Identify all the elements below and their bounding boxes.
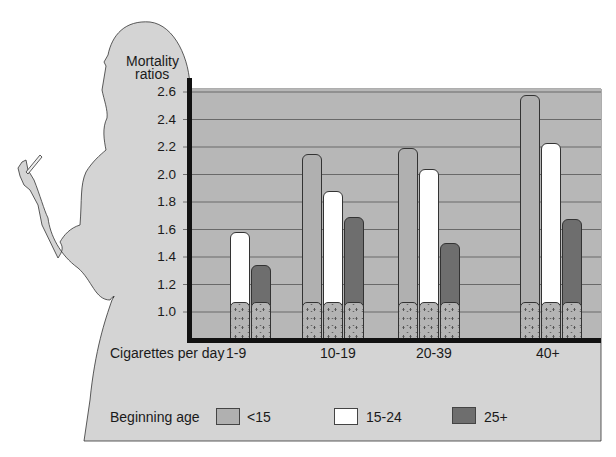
y-tick-label: 1.2 [136,277,176,292]
legend-swatch-15-24 [334,408,358,425]
legend-label-15-24: 15-24 [366,409,402,425]
bar-base-stipple [230,302,250,339]
y-tick-label: 2.0 [136,167,176,182]
x-axis-line [187,338,601,343]
legend-swatch-25plus [452,407,476,424]
legend-label-25plus: 25+ [484,409,508,425]
bar-base-stipple [302,302,322,339]
cigarette-icon [26,155,42,174]
bar-base-stipple [562,302,582,339]
y-tick-label: 1.4 [136,249,176,264]
x-category-label: 1-9 [226,345,246,361]
y-tick-label: 2.2 [136,139,176,154]
y-tick-label: 2.4 [136,112,176,127]
legend-swatch-lt15 [216,408,240,425]
legend-title: Beginning age [110,409,200,425]
bar-base-stipple [520,302,540,339]
y-tick-label: 2.6 [136,84,176,99]
legend-label-lt15: <15 [247,409,271,425]
bar-base-stipple [541,302,561,339]
x-category-label: 40+ [536,345,560,361]
x-category-label: 20-39 [416,345,452,361]
bar-base-stipple [344,302,364,339]
y-tick-label: 1.6 [136,222,176,237]
y-tick-label: 1.0 [136,304,176,319]
x-axis-label: Cigarettes per day [110,345,224,361]
bar-base-stipple [251,302,271,339]
chart-figure: Mortality ratios 2.62.42.22.01.81.61.41.… [0,0,616,457]
bar-base-stipple [398,302,418,339]
y-axis-line [187,78,192,343]
x-category-label: 10-19 [320,345,356,361]
bar-base-stipple [440,302,460,339]
bar-base-stipple [323,302,343,339]
bar-base-stipple [419,302,439,339]
y-axis-label-line2: ratios [135,66,169,82]
y-tick-label: 1.8 [136,194,176,209]
